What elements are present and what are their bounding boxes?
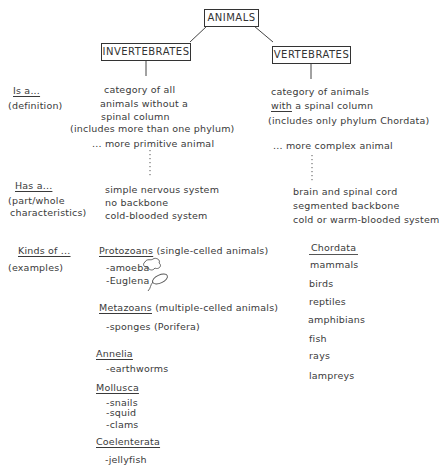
has-a-sub-2: characteristics) bbox=[10, 207, 87, 218]
group-name: Metazoans bbox=[99, 302, 152, 313]
inv-def-line: spinal column bbox=[101, 111, 170, 122]
vert-char: cold or warm-blooded system bbox=[293, 214, 439, 225]
kinds-of-title: Kinds of ... bbox=[18, 245, 71, 256]
vert-def-line: (includes only phylum Chordata) bbox=[268, 115, 429, 126]
example-birds: birds bbox=[309, 278, 333, 289]
is-a-sub: (definition) bbox=[8, 100, 63, 111]
has-a-title: Has a... bbox=[15, 180, 52, 191]
kind-annelia: Annelia bbox=[96, 348, 133, 359]
group-note: (multiple-celled animals) bbox=[152, 302, 278, 313]
root-node-animals: ANIMALS bbox=[204, 9, 259, 27]
inv-char: simple nervous system bbox=[105, 184, 219, 195]
kind-protozoans: Protozoans (single-celled animals) bbox=[99, 245, 268, 256]
example-amphibians: amphibians bbox=[308, 314, 365, 325]
kind-metazoans: Metazoans (multiple-celled animals) bbox=[99, 302, 278, 313]
example-rays: rays bbox=[309, 350, 330, 361]
example-lampreys: lampreys bbox=[309, 370, 354, 381]
kinds-of-sub: (examples) bbox=[8, 262, 63, 273]
euglena-icon bbox=[145, 271, 169, 293]
vert-char: segmented backbone bbox=[293, 200, 399, 211]
example-jellyfish: -jellyfish bbox=[105, 454, 147, 465]
vert-def-line: with a spinal column bbox=[271, 100, 373, 111]
kind-mollusca: Mollusca bbox=[96, 382, 139, 393]
example-squid: -squid bbox=[106, 407, 136, 418]
invertebrates-label: INVERTEBRATES bbox=[103, 46, 190, 57]
inv-char: cold-blooded system bbox=[105, 210, 208, 221]
vert-def-with: with bbox=[271, 100, 292, 111]
vert-def-rest: a spinal column bbox=[292, 100, 373, 111]
root-label: ANIMALS bbox=[207, 12, 255, 23]
example-reptiles: reptiles bbox=[309, 296, 346, 307]
vert-comparison: ... more complex animal bbox=[273, 140, 393, 151]
inv-def-line: (includes more than one phylum) bbox=[70, 123, 235, 134]
kinds-of-title-text: Kinds of ... bbox=[18, 245, 71, 256]
group-note: (single-celled animals) bbox=[153, 245, 268, 256]
node-vertebrates: VERTEBRATES bbox=[272, 46, 351, 64]
node-invertebrates: INVERTEBRATES bbox=[101, 43, 191, 61]
inv-def-line: animals without a bbox=[100, 98, 188, 109]
vert-def-line: category of animals bbox=[271, 86, 369, 97]
inv-char: no backbone bbox=[105, 197, 168, 208]
has-a-sub-1: (part/whole bbox=[8, 195, 65, 206]
is-a-title: Is a... bbox=[13, 85, 40, 96]
example-euglena: -Euglena bbox=[106, 275, 149, 286]
example-clams: -clams bbox=[106, 419, 139, 430]
kind-coelenterata: Coelenterata bbox=[96, 436, 160, 447]
vertebrates-label: VERTEBRATES bbox=[274, 49, 350, 60]
inv-def-line: category of all bbox=[104, 84, 175, 95]
example-mammals: mammals bbox=[310, 259, 358, 270]
example-earthworms: -earthworms bbox=[106, 363, 168, 374]
example-sponges: -sponges (Porifera) bbox=[106, 321, 200, 332]
group-name: Protozoans bbox=[99, 245, 153, 256]
example-fish: fish bbox=[309, 333, 327, 344]
inv-comparison: ... more primitive animal bbox=[92, 138, 214, 149]
kind-chordata: Chordata bbox=[309, 242, 358, 255]
vert-char: brain and spinal cord bbox=[293, 186, 397, 197]
